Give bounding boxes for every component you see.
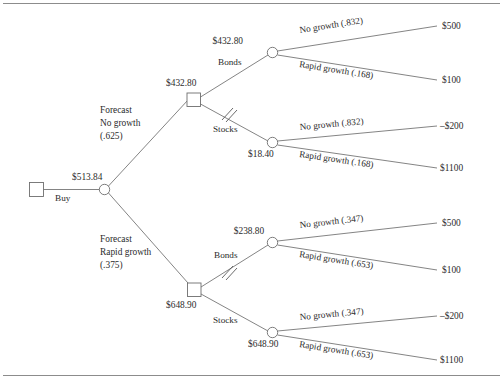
outcome-label-ng-stocks-1: No growth (.832) [299,116,364,132]
forecast-no-growth-line1: Forecast [100,105,132,115]
decision-node-no-growth[interactable] [187,93,201,107]
outcome-label-rg-bonds-2: Rapid growth (.653) [299,249,374,270]
outcome-label-rg-stocks-2: Rapid growth (.653) [299,339,374,360]
chance-node-no-growth-bonds-value: $432.80 [213,36,244,46]
branch-rapid-growth-stocks[interactable] [201,294,268,331]
root-decision-node[interactable] [30,183,44,197]
decision-tree-figure: Buy $513.84 Forecast No growth (.625) $4… [0,0,503,390]
forecast-no-growth-line2: No growth [100,118,141,128]
forecast-no-growth-line3: (.625) [100,131,123,142]
outcome-label-ng-stocks-2: Rapid growth (.168) [299,149,374,170]
chance-node-no-growth-bonds[interactable] [267,47,277,57]
root-chance-node-value: $513.84 [72,172,103,182]
payoff-rg-stocks-2: $1100 [440,355,463,365]
chance-node-rapid-growth-bonds[interactable] [267,237,277,247]
prune-mark-ng-stocks-a [222,108,233,120]
branch-label-buy: Buy [55,193,71,203]
branch-no-growth-stocks[interactable] [201,104,269,141]
payoff-rg-stocks-1: –$200 [439,311,464,321]
decision-tree-canvas: Buy $513.84 Forecast No growth (.625) $4… [0,0,503,390]
outcome-label-rg-stocks-1: No growth (.347) [299,306,364,322]
decision-node-rapid-growth[interactable] [188,283,202,297]
chance-node-rapid-growth-bonds-value: $238.80 [234,226,265,236]
branch-label-rapid-growth-bonds: Bonds [214,250,238,260]
chance-node-rapid-growth-stocks[interactable] [267,327,277,337]
prune-mark-rg-bonds-a [222,266,233,278]
forecast-rapid-growth-line3: (.375) [100,260,123,271]
outcome-label-ng-bonds-2: Rapid growth (.168) [299,59,374,80]
root-chance-node[interactable] [99,184,109,194]
branch-label-rapid-growth-stocks: Stocks [213,315,238,325]
payoff-ng-stocks-2: $1100 [440,163,463,173]
payoff-ng-bonds-2: $100 [442,75,461,85]
outcome-label-ng-bonds-1: No growth (.832) [299,15,364,35]
branch-label-no-growth-stocks: Stocks [213,124,238,134]
payoff-rg-bonds-1: $500 [442,218,461,228]
outcome-label-rg-bonds-1: No growth (.347) [299,213,364,230]
payoff-ng-stocks-1: –$200 [439,121,464,131]
forecast-rapid-growth-line1: Forecast [100,234,132,244]
chance-node-no-growth-stocks-value: $18.40 [248,149,274,159]
decision-node-rapid-growth-value: $648.90 [166,300,197,310]
chance-node-no-growth-stocks[interactable] [267,137,277,147]
branch-label-no-growth-bonds: Bonds [218,57,242,67]
payoff-ng-bonds-1: $500 [442,21,461,31]
decision-node-no-growth-value: $432.80 [166,78,197,88]
payoff-rg-bonds-2: $100 [442,265,461,275]
prune-mark-ng-stocks-b [226,110,237,122]
forecast-rapid-growth-line2: Rapid growth [100,247,152,257]
chance-node-rapid-growth-stocks-value: $648.90 [248,339,279,349]
